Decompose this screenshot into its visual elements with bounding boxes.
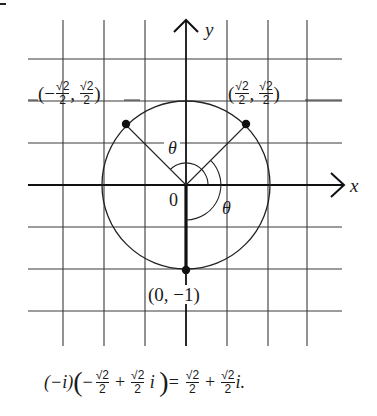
point-bottom	[182, 266, 190, 274]
factor-neg-i: (−i)	[44, 372, 73, 392]
fraction: √22	[258, 80, 273, 106]
fraction: √22	[130, 369, 145, 395]
fraction: √22	[234, 80, 249, 106]
fraction: √22	[95, 369, 110, 395]
theta-label-lower: θ	[222, 199, 231, 217]
point-label-upper-left: (−√22, √22)	[38, 80, 101, 106]
point-label-upper-right: (√22, √22)	[228, 80, 280, 106]
fraction: √22	[220, 369, 235, 395]
fraction: √22	[55, 80, 70, 106]
point-upper-right	[242, 120, 250, 128]
equation: (−i)(−√22+√22 i )=√22+√22i.	[44, 366, 245, 398]
origin-label: 0	[169, 191, 178, 209]
y-axis-label: y	[205, 20, 213, 39]
theta-label-upper: θ	[168, 139, 177, 157]
angle-arc-large	[186, 160, 221, 220]
point-upper-left	[122, 120, 130, 128]
unit-circle-figure: y x 0 θ θ (−√22, √22) (√22, √22) (0, −1)…	[0, 0, 377, 416]
fraction: √22	[185, 369, 200, 395]
point-label-bottom: (0, −1)	[147, 285, 201, 304]
diagram-canvas	[0, 0, 377, 416]
x-axis-label: x	[350, 176, 358, 195]
fraction: √22	[79, 80, 94, 106]
